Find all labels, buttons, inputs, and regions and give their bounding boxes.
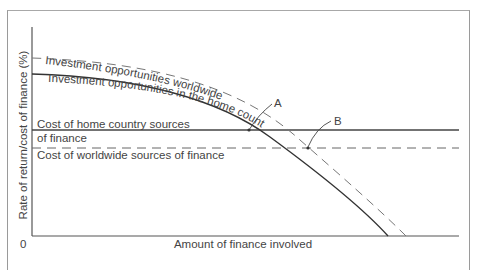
label-home-curve: Investment opportunities in the home cou… (0, 0, 267, 130)
label-world-cost: Cost of worldwide sources of finance (37, 149, 224, 161)
x-axis-label: Amount of finance involved (174, 238, 312, 250)
point-b-marker (306, 146, 309, 149)
origin-label: 0 (20, 238, 26, 250)
label-point-b: B (334, 115, 342, 127)
label-point-a: A (274, 97, 282, 109)
point-a-marker (247, 128, 250, 131)
y-axis-label: Rate of return/cost of finance (%) (17, 50, 29, 219)
label-home-cost-1: Cost of home country sources (37, 118, 190, 130)
pointer-b (308, 121, 331, 147)
label-home-cost-2: of finance (37, 132, 87, 144)
